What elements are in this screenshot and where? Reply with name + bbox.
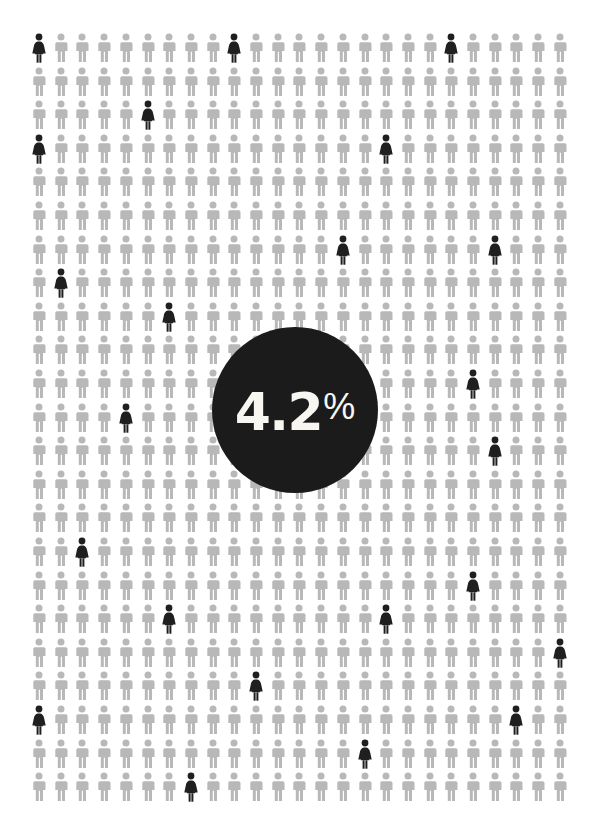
person-male-icon	[182, 235, 200, 265]
person-male-icon	[225, 671, 243, 701]
person-male-icon	[269, 268, 287, 298]
person-male-icon	[464, 268, 482, 298]
person-male-icon	[356, 167, 374, 197]
person-female-icon	[182, 772, 200, 802]
person-male-icon	[139, 201, 157, 231]
person-male-icon	[30, 503, 48, 533]
person-male-icon	[551, 100, 569, 130]
person-male-icon	[204, 571, 222, 601]
person-male-icon	[247, 638, 265, 668]
person-male-icon	[312, 100, 330, 130]
person-male-icon	[160, 235, 178, 265]
person-male-icon	[507, 167, 525, 197]
person-male-icon	[399, 33, 417, 63]
person-male-icon	[421, 503, 439, 533]
person-male-icon	[442, 235, 460, 265]
person-male-icon	[334, 537, 352, 567]
person-male-icon	[356, 470, 374, 500]
person-male-icon	[312, 33, 330, 63]
person-male-icon	[356, 503, 374, 533]
person-male-icon	[529, 201, 547, 231]
person-male-icon	[182, 537, 200, 567]
person-male-icon	[73, 503, 91, 533]
person-male-icon	[529, 571, 547, 601]
person-male-icon	[269, 167, 287, 197]
person-male-icon	[160, 100, 178, 130]
person-male-icon	[204, 638, 222, 668]
person-male-icon	[312, 638, 330, 668]
person-male-icon	[204, 705, 222, 735]
person-male-icon	[312, 302, 330, 332]
person-male-icon	[139, 67, 157, 97]
person-male-icon	[312, 503, 330, 533]
person-male-icon	[464, 436, 482, 466]
person-male-icon	[290, 100, 308, 130]
person-male-icon	[334, 33, 352, 63]
person-male-icon	[117, 772, 135, 802]
person-male-icon	[486, 537, 504, 567]
person-male-icon	[73, 33, 91, 63]
person-male-icon	[52, 772, 70, 802]
person-male-icon	[95, 537, 113, 567]
person-male-icon	[334, 67, 352, 97]
person-male-icon	[73, 638, 91, 668]
person-male-icon	[356, 604, 374, 634]
person-male-icon	[160, 503, 178, 533]
person-male-icon	[95, 33, 113, 63]
person-male-icon	[377, 537, 395, 567]
person-female-icon	[160, 302, 178, 332]
person-male-icon	[182, 436, 200, 466]
person-male-icon	[507, 335, 525, 365]
person-male-icon	[421, 100, 439, 130]
person-male-icon	[247, 100, 265, 130]
person-male-icon	[290, 167, 308, 197]
person-female-icon	[160, 604, 178, 634]
person-male-icon	[529, 268, 547, 298]
person-male-icon	[269, 604, 287, 634]
person-male-icon	[486, 403, 504, 433]
person-male-icon	[464, 100, 482, 130]
person-male-icon	[486, 369, 504, 399]
person-male-icon	[225, 302, 243, 332]
person-male-icon	[442, 503, 460, 533]
person-male-icon	[356, 67, 374, 97]
person-male-icon	[52, 436, 70, 466]
person-male-icon	[464, 638, 482, 668]
person-male-icon	[269, 100, 287, 130]
person-male-icon	[182, 302, 200, 332]
person-male-icon	[139, 403, 157, 433]
person-male-icon	[95, 100, 113, 130]
person-male-icon	[334, 705, 352, 735]
person-male-icon	[290, 604, 308, 634]
person-male-icon	[421, 268, 439, 298]
person-male-icon	[486, 268, 504, 298]
person-male-icon	[486, 201, 504, 231]
person-male-icon	[247, 537, 265, 567]
person-male-icon	[73, 671, 91, 701]
person-male-icon	[73, 403, 91, 433]
person-male-icon	[312, 571, 330, 601]
person-female-icon	[117, 403, 135, 433]
person-male-icon	[247, 302, 265, 332]
person-male-icon	[117, 537, 135, 567]
person-male-icon	[356, 268, 374, 298]
person-male-icon	[312, 268, 330, 298]
person-male-icon	[30, 403, 48, 433]
person-male-icon	[225, 571, 243, 601]
person-male-icon	[334, 571, 352, 601]
person-male-icon	[247, 739, 265, 769]
person-male-icon	[117, 671, 135, 701]
person-male-icon	[204, 235, 222, 265]
person-male-icon	[529, 436, 547, 466]
person-male-icon	[486, 705, 504, 735]
person-male-icon	[204, 470, 222, 500]
person-male-icon	[95, 67, 113, 97]
person-male-icon	[269, 772, 287, 802]
person-male-icon	[204, 739, 222, 769]
person-male-icon	[95, 503, 113, 533]
person-male-icon	[377, 100, 395, 130]
person-male-icon	[117, 470, 135, 500]
person-male-icon	[95, 671, 113, 701]
person-male-icon	[204, 201, 222, 231]
person-male-icon	[507, 201, 525, 231]
